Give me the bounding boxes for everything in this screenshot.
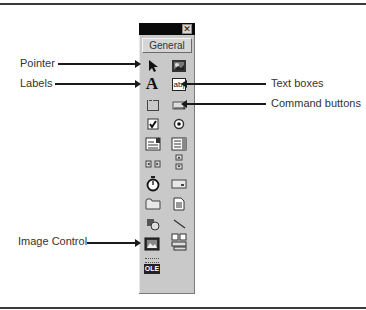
picture-box-tool[interactable]	[171, 58, 187, 74]
label-icon: A	[146, 76, 158, 92]
line-tool[interactable]	[171, 216, 187, 232]
arrow-labels	[55, 83, 136, 85]
combobox-tool[interactable]	[145, 136, 161, 152]
bottom-rule	[0, 307, 366, 309]
general-tab-button[interactable]: General	[142, 38, 192, 53]
drive-listbox-tool[interactable]	[171, 176, 187, 192]
checkbox-icon	[147, 118, 159, 130]
pointer-icon	[147, 59, 159, 73]
callout-pointer: Pointer	[20, 57, 55, 69]
picture-box-icon	[171, 59, 187, 73]
label-tool[interactable]: A	[144, 76, 160, 92]
dir-listbox-tool[interactable]	[145, 196, 161, 212]
image-tool[interactable]	[144, 236, 160, 252]
listbox-icon	[171, 137, 187, 151]
shape-icon	[146, 217, 160, 231]
checkbox-tool[interactable]	[145, 116, 161, 132]
data-tool[interactable]	[171, 234, 187, 250]
image-icon	[144, 237, 160, 251]
close-button[interactable]: ✕	[182, 24, 192, 34]
vscrollbar-icon	[174, 154, 184, 170]
line-icon	[172, 218, 186, 230]
hscrollbar-tool[interactable]	[145, 156, 161, 172]
pointer-tool[interactable]	[145, 58, 161, 74]
hscrollbar-icon	[145, 159, 161, 169]
timer-icon	[146, 176, 160, 192]
ole-tool[interactable]: OLE	[144, 257, 160, 275]
frame-icon	[146, 98, 160, 112]
arrow-command-buttons	[186, 103, 266, 105]
folder-icon	[145, 198, 161, 210]
vscrollbar-tool[interactable]	[171, 154, 187, 170]
ole-dots	[145, 258, 159, 263]
combobox-icon	[145, 137, 161, 151]
toolbox-window: ✕ General A ab|	[139, 23, 195, 294]
callout-image-control: Image Control	[18, 235, 87, 247]
callout-labels: Labels	[20, 77, 52, 89]
ole-icon: OLE	[144, 264, 160, 274]
option-button-icon	[173, 118, 185, 130]
arrow-text-boxes	[186, 83, 266, 85]
shape-tool[interactable]	[145, 216, 161, 232]
listbox-tool[interactable]	[171, 136, 187, 152]
data-control-icon	[171, 233, 187, 251]
toolbox-titlebar[interactable]: ✕	[139, 23, 195, 35]
callout-text-boxes: Text boxes	[271, 77, 324, 89]
arrow-image-control	[87, 242, 136, 244]
callout-command-buttons: Command buttons	[271, 97, 361, 109]
file-listbox-tool[interactable]	[171, 196, 187, 212]
arrow-pointer	[58, 63, 136, 65]
file-icon	[173, 197, 185, 211]
top-rule	[0, 3, 366, 5]
timer-tool[interactable]	[145, 176, 161, 192]
drive-listbox-icon	[171, 178, 187, 190]
option-button-tool[interactable]	[171, 116, 187, 132]
frame-tool[interactable]	[145, 97, 161, 113]
